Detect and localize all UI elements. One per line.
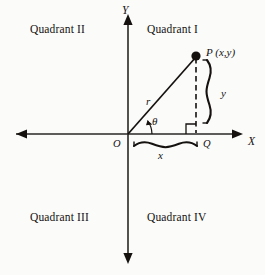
segment-r [128, 57, 196, 134]
right-angle-marker [186, 124, 196, 134]
y-axis [123, 14, 132, 264]
x-axis-label: X [248, 136, 255, 148]
point-p-label: P (x,y) [206, 47, 235, 58]
point-q-label: Q [203, 139, 211, 150]
origin-label: O [113, 139, 121, 150]
x-axis-right-arrowhead [232, 129, 243, 138]
diagram-canvas [0, 0, 265, 275]
y-axis-down-arrowhead [123, 253, 132, 264]
brace-y [207, 60, 211, 123]
point-p-dot [191, 51, 200, 60]
quadrant-diagram: Quadrant II Quadrant I Quadrant III Quad… [0, 0, 265, 275]
quadrant-label-iii: Quadrant III [30, 212, 89, 224]
quadrant-label-iv: Quadrant IV [147, 212, 206, 224]
x-axis-left-arrowhead [16, 129, 27, 138]
brace-x [134, 142, 197, 147]
quadrant-label-i: Quadrant I [147, 24, 198, 36]
segment-r-label: r [146, 96, 150, 107]
y-axis-label: Y [122, 5, 128, 17]
angle-theta-label: θ [152, 116, 157, 127]
quadrant-label-ii: Quadrant II [30, 24, 85, 36]
segment-x-label: x [158, 150, 163, 161]
segment-y-label: y [221, 88, 226, 99]
